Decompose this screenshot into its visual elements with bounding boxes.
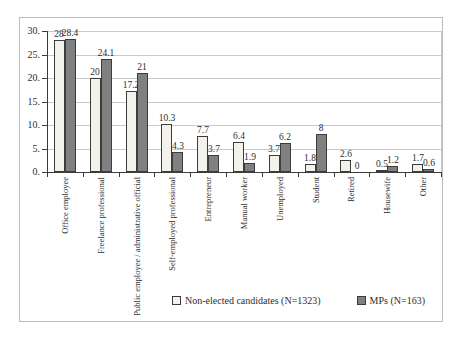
bar-mps — [101, 59, 112, 172]
column-chart: 2828.4Office employee2024.1Freelance pro… — [0, 0, 460, 339]
bar-value-label: 6.4 — [222, 130, 256, 142]
y-axis-tick-label: 10. — [10, 119, 40, 131]
y-axis-tick-label: 25. — [10, 49, 40, 61]
x-axis-tick — [83, 173, 84, 177]
x-axis — [47, 172, 442, 173]
bar-value-label: 6.2 — [268, 131, 302, 143]
y-axis-tick-label: 5. — [10, 143, 40, 155]
bar-value-label: 3.7 — [197, 143, 231, 155]
bar-non-elected — [269, 155, 280, 172]
bar-non-elected — [90, 78, 101, 172]
legend-label-non-elected: Non-elected candidates (N=1323) — [185, 295, 321, 306]
bar-mps — [316, 134, 327, 172]
bar-non-elected — [54, 40, 65, 172]
legend: Non-elected candidates (N=1323) MPs (N=1… — [19, 295, 443, 306]
x-axis-tick — [441, 173, 442, 177]
bar-value-label: 21 — [125, 61, 159, 73]
x-axis-tick — [298, 173, 299, 177]
bar-value-label: 24.1 — [89, 47, 123, 59]
legend-item-non-elected: Non-elected candidates (N=1323) — [172, 295, 321, 306]
bar-non-elected — [305, 164, 316, 172]
x-axis-tick — [405, 173, 406, 177]
x-axis-tick — [334, 173, 335, 177]
x-axis-tick — [154, 173, 155, 177]
x-axis-tick — [262, 173, 263, 177]
bar-mps — [208, 155, 219, 172]
bar-value-label: 8 — [304, 122, 338, 134]
plot-right-border — [441, 31, 442, 172]
bar-value-label: 0.6 — [412, 157, 446, 169]
legend-label-mps: MPs (N=163) — [370, 295, 425, 306]
legend-item-mps: MPs (N=163) — [357, 295, 425, 306]
x-axis-tick — [190, 173, 191, 177]
bar-value-label: 2.6 — [329, 148, 363, 160]
bar-mps — [137, 73, 148, 172]
bar-value-label: 7.7 — [186, 124, 220, 136]
y-axis-tick-label: 20. — [10, 72, 40, 84]
y-axis-tick-label: 0. — [10, 166, 40, 178]
bar-value-label: 10.3 — [150, 112, 184, 124]
bar-value-label: 28.4 — [53, 27, 87, 39]
x-axis-tick — [369, 173, 370, 177]
bar-mps — [65, 39, 76, 172]
bar-mps — [280, 143, 291, 172]
y-axis-tick-label: 30. — [10, 25, 40, 37]
x-axis-tick — [47, 173, 48, 177]
x-axis-tick — [226, 173, 227, 177]
bar-value-label: 4.3 — [161, 140, 195, 152]
bar-mps — [244, 163, 255, 172]
gridline — [47, 31, 441, 32]
legend-swatch-mps-icon — [357, 296, 366, 305]
bar-non-elected — [126, 91, 137, 172]
y-axis-tick-label: 15. — [10, 96, 40, 108]
y-axis — [47, 31, 48, 173]
x-axis-tick — [119, 173, 120, 177]
bar-mps — [172, 152, 183, 172]
legend-swatch-non-elected-icon — [172, 296, 181, 305]
